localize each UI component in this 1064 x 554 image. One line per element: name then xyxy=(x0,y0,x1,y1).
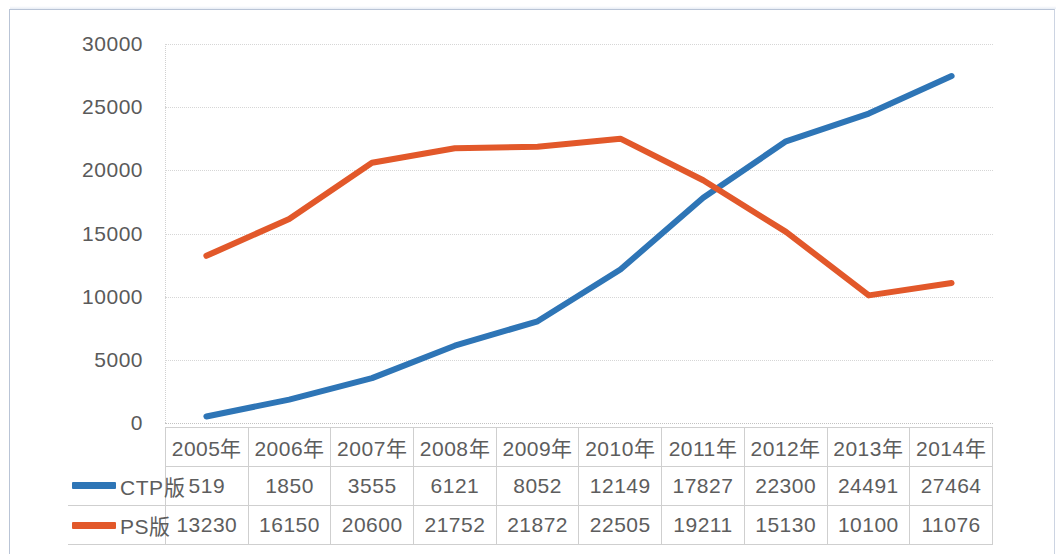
series-lines xyxy=(165,44,993,423)
legend-entry: CTP版 xyxy=(68,467,166,506)
table-column-header: 2014年 xyxy=(910,428,993,467)
y-axis-tick-label: 15000 xyxy=(82,222,143,246)
series-line-PS版 xyxy=(206,139,951,296)
table-cell: 16150 xyxy=(248,506,331,545)
table-cell: 19211 xyxy=(662,506,745,545)
table-cell: 13230 xyxy=(166,506,249,545)
table-column-header: 2009年 xyxy=(496,428,579,467)
y-axis-tick-label: 30000 xyxy=(82,32,143,56)
legend-swatch-icon xyxy=(72,522,116,529)
table-column-header: 2011年 xyxy=(662,428,745,467)
chart-container: 050001000015000200002500030000 2005年2006… xyxy=(0,0,1064,554)
legend-label: CTP版 xyxy=(120,471,185,501)
table-cell: 24491 xyxy=(827,467,910,506)
table-cell: 11076 xyxy=(910,506,993,545)
table-column-header: 2007年 xyxy=(331,428,414,467)
table-corner-blank xyxy=(68,428,166,467)
table-row: 2005年2006年2007年2008年2009年2010年2011年2012年… xyxy=(68,428,993,467)
table-cell: 12149 xyxy=(579,467,662,506)
table-cell: 22300 xyxy=(744,467,827,506)
data-table: 2005年2006年2007年2008年2009年2010年2011年2012年… xyxy=(68,427,993,545)
table-cell: 10100 xyxy=(827,506,910,545)
table-cell: 15130 xyxy=(744,506,827,545)
y-axis-tick-label: 20000 xyxy=(82,158,143,182)
table-cell: 1850 xyxy=(248,467,331,506)
y-axis-tick-label: 25000 xyxy=(82,95,143,119)
table-column-header: 2005年 xyxy=(166,428,249,467)
y-axis-tick-label: 5000 xyxy=(94,348,143,372)
table-cell: 21752 xyxy=(414,506,497,545)
table-cell: 6121 xyxy=(414,467,497,506)
table-column-header: 2012年 xyxy=(744,428,827,467)
table-column-header: 2006年 xyxy=(248,428,331,467)
legend-entry: PS版 xyxy=(68,506,166,545)
legend-label: PS版 xyxy=(120,510,171,540)
table-cell: 22505 xyxy=(579,506,662,545)
table-column-header: 2010年 xyxy=(579,428,662,467)
table-cell: 8052 xyxy=(496,467,579,506)
table-cell: 20600 xyxy=(331,506,414,545)
table-row: CTP版519185035556121805212149178272230024… xyxy=(68,467,993,506)
gridline xyxy=(165,423,993,424)
table-cell: 27464 xyxy=(910,467,993,506)
page-frame-shadow xyxy=(10,6,1056,9)
table-column-header: 2008年 xyxy=(414,428,497,467)
table-cell: 21872 xyxy=(496,506,579,545)
y-axis-labels: 050001000015000200002500030000 xyxy=(0,44,155,423)
series-line-CTP版 xyxy=(206,76,951,416)
table-row: PS版1323016150206002175221872225051921115… xyxy=(68,506,993,545)
legend-swatch-icon xyxy=(72,482,116,489)
table-cell: 3555 xyxy=(331,467,414,506)
y-axis-tick-label: 10000 xyxy=(82,285,143,309)
table-column-header: 2013年 xyxy=(827,428,910,467)
table-cell: 17827 xyxy=(662,467,745,506)
